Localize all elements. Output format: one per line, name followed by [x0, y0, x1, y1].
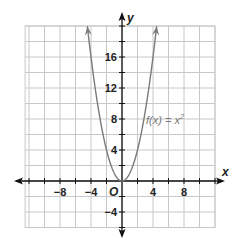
y-tick-label: 16	[105, 51, 117, 63]
x-tick-label: −8	[54, 186, 67, 198]
y-tick-label: 8	[111, 113, 117, 125]
y-tick-label: 12	[105, 82, 117, 94]
parabola-chart: −8−448161284−4 x y O f(x) = x2	[0, 0, 238, 245]
y-tick-label: 4	[111, 144, 118, 156]
x-tick-label: 8	[181, 186, 187, 198]
x-tick-label: 4	[150, 186, 157, 198]
origin-label: O	[109, 185, 119, 199]
x-tick-label: −4	[85, 186, 98, 198]
y-tick-label: −4	[104, 206, 117, 218]
x-axis-label: x	[221, 165, 230, 179]
function-label: f(x) = x2	[146, 113, 184, 126]
axes	[14, 12, 225, 238]
y-axis-label: y	[126, 11, 135, 25]
